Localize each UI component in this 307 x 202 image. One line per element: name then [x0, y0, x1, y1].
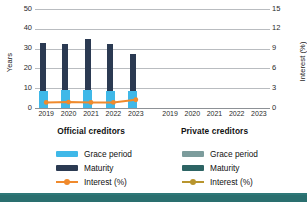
panel-official-creditors	[35, 9, 147, 108]
interest-line-official	[35, 9, 147, 108]
x-tick-2022: 2022	[226, 110, 248, 117]
gridline-baseline	[35, 108, 270, 109]
x-tick-2020: 2020	[181, 110, 203, 117]
legend-label-interest: Interest (%)	[84, 177, 127, 187]
x-tick-2019: 2019	[159, 110, 181, 117]
y-tick-right-6: 6	[272, 64, 292, 72]
legend-item-interest[interactable]: Interest (%)	[182, 175, 258, 189]
y-tick-right-15: 15	[272, 5, 292, 13]
grid-and-bars	[35, 9, 270, 108]
y-tick-left-40: 40	[12, 24, 32, 32]
y-axis-title-right: Interest (%)	[298, 34, 307, 90]
interest-marker	[133, 97, 138, 102]
y-tick-right-9: 9	[272, 44, 292, 52]
legend-swatch-maturity	[56, 165, 78, 171]
chart-figure: Years Interest (%) 50 40 30 20 10 0 15 1…	[0, 0, 307, 202]
x-tick-2019: 2019	[35, 110, 57, 117]
x-tick-2023: 2023	[248, 110, 270, 117]
legend-label-grace-period: Grace period	[210, 149, 258, 159]
legend-swatch-interest	[182, 178, 204, 186]
y-tick-left-50: 50	[12, 5, 32, 13]
legend-item-grace-period[interactable]: Grace period	[182, 147, 258, 161]
legend-item-interest[interactable]: Interest (%)	[56, 175, 132, 189]
legend-label-grace-period: Grace period	[84, 149, 132, 159]
y-tick-left-20: 20	[12, 64, 32, 72]
x-tick-2022: 2022	[102, 110, 124, 117]
x-tick-2020: 2020	[57, 110, 79, 117]
plot-area: Years Interest (%) 50 40 30 20 10 0 15 1…	[0, 0, 307, 128]
y-tick-left-30: 30	[12, 44, 32, 52]
interest-line-private	[159, 9, 270, 108]
footer-band	[0, 193, 307, 202]
legend-swatch-maturity	[182, 165, 204, 171]
x-tick-2023: 2023	[125, 110, 147, 117]
interest-marker	[66, 100, 71, 105]
legend-label-interest: Interest (%)	[210, 177, 253, 187]
y-tick-right-12: 12	[272, 24, 292, 32]
x-axis-official: 2019 2020 2021 2022 2023	[35, 110, 147, 122]
x-axis-private: 2019 2020 2021 2022 2023	[159, 110, 270, 122]
y-tick-right-0: 0	[272, 104, 292, 112]
interest-marker	[111, 100, 116, 105]
caption-private-creditors: Private creditors	[159, 126, 270, 136]
x-tick-2021: 2021	[203, 110, 225, 117]
legend-item-maturity[interactable]: Maturity	[56, 161, 132, 175]
legend-label-maturity: Maturity	[210, 163, 240, 173]
interest-marker	[89, 100, 94, 105]
x-tick-2021: 2021	[80, 110, 102, 117]
caption-official-creditors: Official creditors	[35, 126, 147, 136]
legend-private: Grace period Maturity Interest (%)	[182, 147, 258, 189]
interest-marker	[44, 100, 49, 105]
y-tick-left-0: 0	[12, 104, 32, 112]
footer-band-inner	[0, 195, 307, 202]
legend-swatch-grace-period	[56, 151, 78, 157]
legend-swatch-interest	[56, 178, 78, 186]
legend-official: Grace period Maturity Interest (%)	[56, 147, 132, 189]
legend-item-grace-period[interactable]: Grace period	[56, 147, 132, 161]
y-tick-right-3: 3	[272, 84, 292, 92]
y-tick-left-10: 10	[12, 84, 32, 92]
legend-label-maturity: Maturity	[84, 163, 114, 173]
legend-swatch-grace-period	[182, 151, 204, 157]
panel-private-creditors	[159, 9, 270, 108]
legend-item-maturity[interactable]: Maturity	[182, 161, 258, 175]
